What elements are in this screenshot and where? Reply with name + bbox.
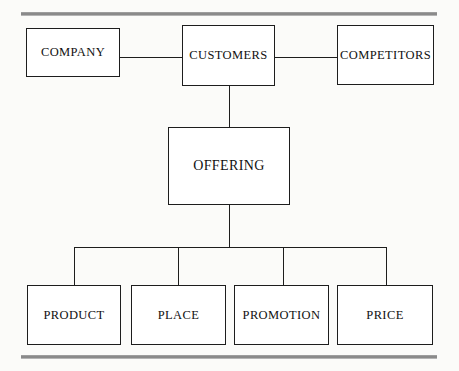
connector-distribution-bus bbox=[74, 247, 387, 248]
node-place[interactable]: PLACE bbox=[131, 285, 226, 345]
top-rule bbox=[21, 12, 437, 16]
node-price-label: PRICE bbox=[366, 309, 403, 322]
node-offering[interactable]: OFFERING bbox=[168, 127, 290, 205]
connector-company-to-customers bbox=[120, 57, 182, 58]
node-product-label: PRODUCT bbox=[43, 309, 104, 322]
node-offering-label: OFFERING bbox=[193, 159, 265, 173]
connector-bus-to-promotion bbox=[283, 247, 284, 286]
connector-bus-to-price bbox=[386, 247, 387, 286]
node-promotion[interactable]: PROMOTION bbox=[234, 285, 329, 345]
node-competitors-label: COMPETITORS bbox=[340, 49, 431, 62]
node-price[interactable]: PRICE bbox=[337, 285, 433, 345]
bottom-rule bbox=[21, 355, 437, 359]
node-competitors[interactable]: COMPETITORS bbox=[337, 25, 434, 85]
connector-customers-to-offering bbox=[229, 86, 230, 128]
node-product[interactable]: PRODUCT bbox=[27, 285, 121, 345]
node-promotion-label: PROMOTION bbox=[243, 309, 321, 322]
connector-customers-to-competitors bbox=[275, 57, 337, 58]
connector-bus-to-place bbox=[178, 247, 179, 286]
node-customers-label: CUSTOMERS bbox=[189, 49, 267, 62]
node-company-label: COMPANY bbox=[41, 46, 105, 59]
connector-bus-to-product bbox=[74, 247, 75, 286]
diagram-canvas: COMPANY CUSTOMERS COMPETITORS OFFERING P… bbox=[0, 0, 459, 371]
node-company[interactable]: COMPANY bbox=[26, 28, 120, 77]
node-place-label: PLACE bbox=[158, 309, 200, 322]
node-customers[interactable]: CUSTOMERS bbox=[182, 25, 275, 86]
connector-offering-to-bus bbox=[229, 205, 230, 248]
